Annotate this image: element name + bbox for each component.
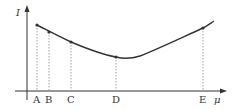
point-label-a: A	[32, 94, 41, 105]
point-label-d: D	[112, 94, 120, 105]
y-axis-arrow-icon	[25, 5, 30, 12]
data-points	[35, 23, 204, 58]
i-mu-diagram: I μ A B C D E	[0, 0, 236, 109]
point-label-b: B	[45, 94, 52, 105]
y-axis-label: I	[15, 7, 21, 18]
point-label-c: C	[67, 94, 75, 105]
x-axis-label: μ	[214, 94, 221, 105]
point-label-e: E	[199, 94, 206, 105]
x-axis-arrow-icon	[220, 89, 227, 94]
i-mu-curve	[37, 21, 214, 58]
